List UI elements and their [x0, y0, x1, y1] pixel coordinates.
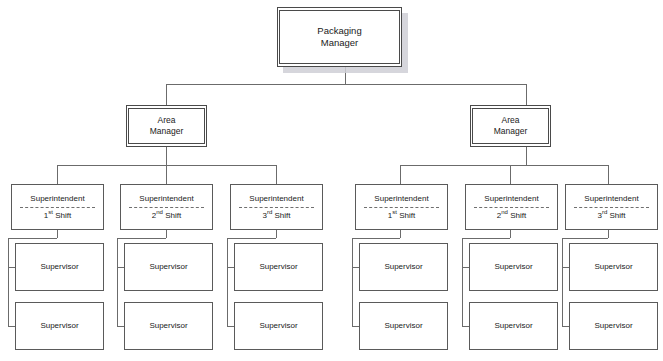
node-supervisor-9[interactable]: Supervisor: [469, 243, 558, 291]
supervisor-4-label: Supervisor: [149, 321, 187, 331]
connector-supt4-elbow: [352, 238, 400, 239]
superintendent-3-shift: 3rd Shift: [262, 209, 290, 224]
supervisor-6-label: Supervisor: [259, 321, 297, 331]
node-supervisor-11[interactable]: Supervisor: [569, 243, 658, 291]
packaging-manager-line2: Manager: [321, 37, 359, 49]
supervisor-12-label: Supervisor: [594, 321, 632, 331]
connector-area1-stem: [166, 147, 167, 165]
node-supervisor-6[interactable]: Supervisor: [234, 302, 323, 350]
connector-supt5-spine: [462, 238, 463, 326]
connector-supt2-stub-a: [117, 267, 124, 268]
connector-supt3-stub-b: [227, 326, 234, 327]
node-supervisor-2[interactable]: Supervisor: [15, 302, 104, 350]
connector-drop-supt-2: [166, 165, 167, 184]
area-manager-2-line2: Manager: [494, 126, 528, 137]
connector-drop-supt-6: [608, 165, 609, 184]
connector-drop-supt-5: [510, 165, 511, 184]
superintendent-4-title: Superintendent: [374, 191, 428, 206]
node-superintendent-5[interactable]: Superintendent 2nd Shift: [465, 184, 558, 230]
connector-supt6-stub-b: [562, 326, 569, 327]
superintendent-1-shift: 1st Shift: [44, 209, 71, 224]
packaging-manager-line1: Packaging: [317, 25, 361, 37]
superintendent-5-title: Superintendent: [484, 191, 538, 206]
superintendent-3-title: Superintendent: [249, 191, 303, 206]
connector-supt5-stub-a: [462, 267, 469, 268]
supervisor-10-label: Supervisor: [494, 321, 532, 331]
superintendent-5-shift: 2nd Shift: [497, 209, 526, 224]
superintendent-6-shift: 3rd Shift: [597, 209, 625, 224]
node-superintendent-4[interactable]: Superintendent 1st Shift: [355, 184, 448, 230]
connector-supt1-stem: [57, 230, 58, 238]
connector-supt6-stem: [608, 230, 609, 238]
connector-area2-bus: [400, 165, 608, 166]
node-superintendent-6[interactable]: Superintendent 3rd Shift: [565, 184, 658, 230]
node-supervisor-1[interactable]: Supervisor: [15, 243, 104, 291]
connector-drop-supt-1: [57, 165, 58, 184]
connector-supt1-spine: [8, 238, 9, 326]
connector-supt4-stem: [400, 230, 401, 238]
supervisor-1-label: Supervisor: [40, 262, 78, 272]
connector-supt5-stub-b: [462, 326, 469, 327]
connector-supt4-spine: [352, 238, 353, 326]
superintendent-6-divider: [574, 207, 649, 208]
connector-supt4-stub-a: [352, 267, 359, 268]
area-manager-1-line2: Manager: [150, 126, 184, 137]
connector-supt5-stem: [510, 230, 511, 238]
area-manager-2-line1: Area: [502, 115, 520, 126]
connector-drop-area-1: [166, 84, 167, 105]
node-supervisor-10[interactable]: Supervisor: [469, 302, 558, 350]
superintendent-1-divider: [20, 207, 95, 208]
org-chart: Packaging Manager Area Manager Area Mana…: [0, 0, 663, 361]
connector-drop-area-2: [526, 84, 527, 105]
node-supervisor-5[interactable]: Supervisor: [234, 243, 323, 291]
connector-supt1-stub-b: [8, 326, 15, 327]
node-supervisor-3[interactable]: Supervisor: [124, 243, 213, 291]
supervisor-5-label: Supervisor: [259, 262, 297, 272]
connector-supt1-elbow: [8, 238, 57, 239]
superintendent-4-divider: [364, 207, 439, 208]
supervisor-2-label: Supervisor: [40, 321, 78, 331]
connector-supt2-spine: [117, 238, 118, 326]
superintendent-2-divider: [129, 207, 204, 208]
superintendent-6-title: Superintendent: [584, 191, 638, 206]
connector-supt4-stub-b: [352, 326, 359, 327]
node-area-manager-1[interactable]: Area Manager: [126, 105, 207, 147]
node-superintendent-1[interactable]: Superintendent 1st Shift: [11, 184, 104, 230]
superintendent-1-title: Superintendent: [30, 191, 84, 206]
supervisor-3-label: Supervisor: [149, 262, 187, 272]
superintendent-4-shift: 1st Shift: [388, 209, 415, 224]
connector-root-bus: [166, 84, 526, 85]
connector-supt3-stem: [276, 230, 277, 238]
area-manager-1-line1: Area: [158, 115, 176, 126]
supervisor-9-label: Supervisor: [494, 262, 532, 272]
connector-area2-stem: [526, 147, 527, 165]
connector-supt2-stem: [166, 230, 167, 238]
superintendent-5-divider: [474, 207, 549, 208]
connector-supt6-spine: [562, 238, 563, 326]
node-area-manager-2[interactable]: Area Manager: [470, 105, 551, 147]
node-supervisor-4[interactable]: Supervisor: [124, 302, 213, 350]
node-packaging-manager[interactable]: Packaging Manager: [277, 7, 402, 67]
connector-supt6-stub-a: [562, 267, 569, 268]
connector-supt2-stub-b: [117, 326, 124, 327]
connector-supt2-elbow: [117, 238, 166, 239]
node-supervisor-12[interactable]: Supervisor: [569, 302, 658, 350]
superintendent-2-title: Superintendent: [139, 191, 193, 206]
node-superintendent-3[interactable]: Superintendent 3rd Shift: [230, 184, 323, 230]
supervisor-11-label: Supervisor: [594, 262, 632, 272]
supervisor-8-label: Supervisor: [384, 321, 422, 331]
connector-supt3-spine: [227, 238, 228, 326]
node-supervisor-7[interactable]: Supervisor: [359, 243, 448, 291]
connector-supt6-elbow: [562, 238, 608, 239]
supervisor-7-label: Supervisor: [384, 262, 422, 272]
connector-drop-supt-3: [276, 165, 277, 184]
connector-supt5-elbow: [462, 238, 510, 239]
connector-supt3-elbow: [227, 238, 276, 239]
connector-supt3-stub-a: [227, 267, 234, 268]
connector-drop-supt-4: [400, 165, 401, 184]
node-superintendent-2[interactable]: Superintendent 2nd Shift: [120, 184, 213, 230]
superintendent-3-divider: [239, 207, 314, 208]
superintendent-2-shift: 2nd Shift: [152, 209, 181, 224]
connector-supt1-stub-a: [8, 267, 15, 268]
node-supervisor-8[interactable]: Supervisor: [359, 302, 448, 350]
